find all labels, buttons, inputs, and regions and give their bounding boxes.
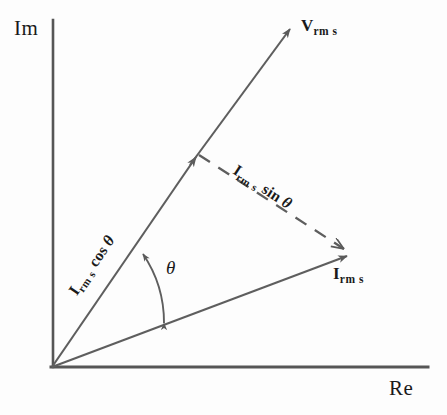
theta-angle-symbol: θ	[166, 258, 175, 277]
irms-vector-label: Irm s	[333, 265, 364, 285]
vrms-vector-upper-segment	[190, 29, 290, 165]
irms-subscript: rm s	[340, 273, 364, 285]
vrms-vector-label: Vrm s	[301, 17, 338, 37]
vrms-subscript: rm s	[313, 25, 337, 37]
phasor-diagram-figure: Im Re Vrm s Irm s Irm scosθ Irm ssinθ θ	[0, 0, 447, 415]
vrms-symbol: V	[301, 16, 313, 35]
imaginary-axis-label: Im	[14, 18, 38, 39]
theta-angle-arc	[143, 254, 164, 323]
real-axis-label: Re	[389, 378, 413, 399]
irms-symbol: I	[333, 264, 340, 283]
phasor-diagram-canvas	[0, 0, 447, 415]
